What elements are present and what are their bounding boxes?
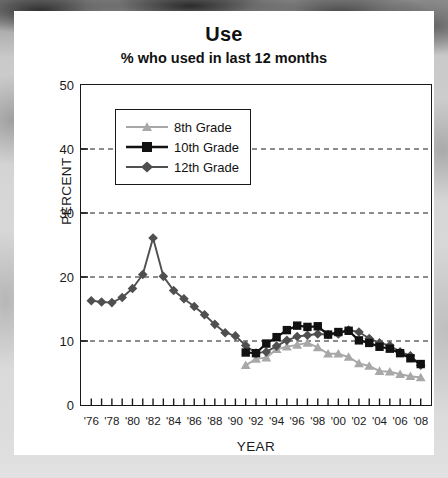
x-tick-label: '88: [207, 414, 222, 427]
x-tick-label: '86: [187, 414, 202, 427]
legend-symbol-12th-grade: [125, 159, 169, 175]
x-tick-label: '78: [104, 414, 119, 427]
x-tick-label: '76: [84, 414, 99, 427]
y-tick-label: 30: [60, 206, 74, 221]
legend-symbol-8th-grade: [125, 119, 169, 135]
chart-title: Use: [14, 23, 434, 46]
x-tick-label: '04: [372, 414, 387, 427]
y-tick-label: 0: [67, 398, 74, 413]
legend-label: 10th Grade: [174, 140, 239, 155]
chart-subtitle: % who used in last 12 months: [14, 50, 434, 66]
y-tick-label: 20: [60, 270, 74, 285]
screenshot-root: Use % who used in last 12 months PERCENT…: [0, 0, 448, 478]
x-tick-label: '84: [166, 414, 181, 427]
y-tick-label: 40: [60, 142, 74, 157]
x-tick-label: '02: [351, 414, 366, 427]
plot-area: PERCENT YEAR 01020304050 '76'78'80'82'84…: [80, 84, 432, 406]
legend-symbol-10th-grade: [125, 139, 169, 155]
x-tick-label: '82: [145, 414, 160, 427]
x-tick-label: '92: [248, 414, 263, 427]
legend-item[interactable]: 10th Grade: [125, 137, 239, 157]
x-tick-label: '96: [290, 414, 305, 427]
y-tick-label: 50: [60, 78, 74, 93]
chart-card: Use % who used in last 12 months PERCENT…: [14, 11, 434, 455]
y-tick-label: 10: [60, 334, 74, 349]
x-tick-label: '08: [413, 414, 428, 427]
chart-legend: 8th Grade 10th Grade: [115, 109, 251, 185]
legend-label: 8th Grade: [174, 120, 232, 135]
legend-label: 12th Grade: [174, 160, 239, 175]
legend-item[interactable]: 8th Grade: [125, 117, 239, 137]
x-tick-label: '06: [393, 414, 408, 427]
x-tick-label: '94: [269, 414, 284, 427]
x-tick-label: '00: [331, 414, 346, 427]
x-axis-label: YEAR: [81, 439, 431, 454]
legend-item[interactable]: 12th Grade: [125, 157, 239, 177]
x-tick-label: '80: [125, 414, 140, 427]
x-tick-label: '90: [228, 414, 243, 427]
x-tick-label: '98: [310, 414, 325, 427]
